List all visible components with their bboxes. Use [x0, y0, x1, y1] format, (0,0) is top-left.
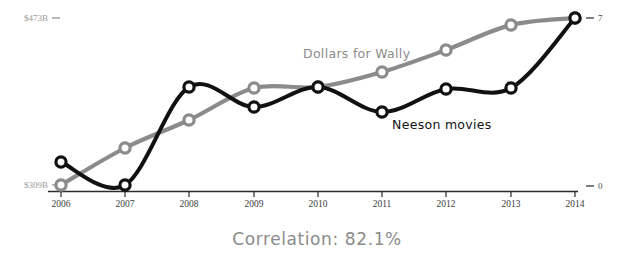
left-axis-max-label: $473B	[24, 13, 48, 23]
x-axis-tick-label: 2012	[437, 199, 456, 209]
x-axis-tick-label: 2006	[52, 199, 71, 209]
x-axis: 200620072008200920102011201220132014	[48, 192, 585, 210]
data-point-marker[interactable]	[249, 83, 259, 93]
data-point-marker[interactable]	[120, 143, 130, 153]
data-point-marker[interactable]	[570, 13, 580, 23]
series-line	[61, 18, 575, 185]
x-axis-tick-label: 2014	[566, 199, 585, 209]
data-point-marker[interactable]	[506, 83, 516, 93]
right-axis-max-label: 7	[598, 13, 603, 23]
series-dollars-for-wally	[56, 13, 580, 190]
x-axis-label-group: 200620072008200920102011201220132014	[52, 199, 585, 209]
right-axis-min-label: 0	[598, 181, 603, 191]
x-axis-tick-label: 2008	[180, 199, 199, 209]
x-axis-tick-label: 2010	[309, 199, 328, 209]
data-point-marker[interactable]	[184, 115, 194, 125]
left-axis-min-label: $309B	[24, 180, 48, 190]
right-axis: 7 0	[586, 13, 603, 191]
correlation-chart: $473B $309B 7 0 200620072008200920102011…	[0, 0, 635, 259]
data-point-marker[interactable]	[377, 67, 387, 77]
data-point-marker[interactable]	[56, 157, 66, 167]
x-axis-tick-label: 2013	[502, 199, 521, 209]
data-point-marker[interactable]	[120, 180, 130, 190]
series-neeson-movies	[56, 13, 580, 190]
x-axis-tick-label: 2009	[245, 199, 264, 209]
data-point-marker[interactable]	[56, 180, 66, 190]
series-label-dollars-for-wally: Dollars for Wally	[303, 46, 411, 61]
series-line	[61, 18, 575, 188]
data-point-marker[interactable]	[441, 84, 451, 94]
series-layer	[56, 13, 580, 190]
data-point-marker[interactable]	[313, 82, 323, 92]
x-axis-tick-group	[61, 192, 575, 198]
correlation-caption: Correlation: 82.1%	[232, 229, 402, 249]
data-point-marker[interactable]	[184, 82, 194, 92]
x-axis-tick-label: 2007	[116, 199, 135, 209]
data-point-marker[interactable]	[249, 102, 259, 112]
data-point-marker[interactable]	[506, 20, 516, 30]
data-point-marker[interactable]	[377, 107, 387, 117]
chart-container: $473B $309B 7 0 200620072008200920102011…	[0, 0, 635, 259]
series-label-neeson-movies: Neeson movies	[392, 117, 492, 132]
data-point-marker[interactable]	[441, 45, 451, 55]
x-axis-tick-label: 2011	[373, 199, 392, 209]
